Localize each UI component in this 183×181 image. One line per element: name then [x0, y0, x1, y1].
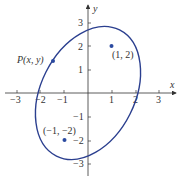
x-tick-label: 3	[156, 94, 161, 105]
x-tick-label: −3	[10, 94, 21, 105]
y-tick-label: 3	[78, 17, 83, 28]
y-tick-label: 1	[78, 64, 83, 75]
ellipse-diagram: −3 −2 −1 1 2 3 3 2 1 −1 −2 −3 x y (1, 2)…	[0, 0, 183, 181]
x-tick-label: 1	[109, 94, 114, 105]
y-tick-label: −2	[73, 135, 84, 146]
coordinate-plane: −3 −2 −1 1 2 3 3 2 1 −1 −2 −3 x y (1, 2)…	[0, 0, 183, 181]
focus-label-1-2: (1, 2)	[112, 49, 134, 61]
x-axis-label: x	[169, 79, 175, 90]
y-axis-label: y	[92, 3, 98, 14]
focus-point-neg1-neg2	[63, 138, 67, 142]
point-p	[51, 59, 55, 63]
x-tick-label: −1	[57, 94, 68, 105]
point-p-label: P(x, y)	[16, 54, 44, 66]
y-tick-label: 2	[78, 41, 83, 52]
y-ticks	[88, 23, 91, 164]
focus-label-neg1-neg2: (−1, −2)	[43, 125, 76, 137]
focus-point-1-2	[110, 44, 114, 48]
point-p-text: P(x, y)	[16, 54, 44, 66]
y-tick-label: −1	[73, 111, 84, 122]
